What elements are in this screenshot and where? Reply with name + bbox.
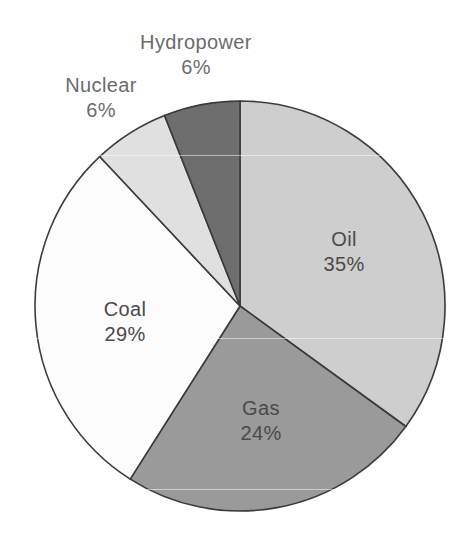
pie-chart-canvas	[0, 0, 469, 552]
pie-slices-group	[35, 101, 445, 511]
pie-chart-figure: Hydropower 6% Nuclear 6% Oil 35% Coal 29…	[0, 0, 469, 552]
